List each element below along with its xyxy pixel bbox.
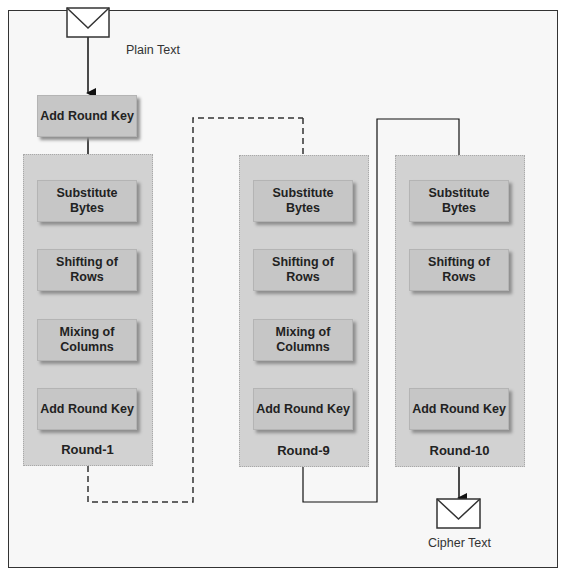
round-10-shift-rows-step: Shifting of Rows (409, 249, 509, 291)
round-9-add-round-key-step: Add Round Key (253, 388, 353, 430)
initial-add-round-key-step: Add Round Key (37, 95, 137, 137)
round-1-substitute-bytes-step: Substitute Bytes (37, 180, 137, 222)
round-1-label: Round-1 (23, 442, 152, 457)
cipher-text-label: Cipher Text (428, 536, 491, 550)
envelope-icon (436, 498, 481, 529)
plain-text-label: Plain Text (126, 43, 180, 57)
round-9-shift-rows-step: Shifting of Rows (253, 249, 353, 291)
round-10-label: Round-10 (395, 443, 524, 458)
round-9-substitute-bytes-step: Substitute Bytes (253, 180, 353, 222)
round-10-substitute-bytes-step: Substitute Bytes (409, 180, 509, 222)
envelope-icon (66, 7, 110, 38)
round-10-add-round-key-step: Add Round Key (409, 388, 509, 430)
round-9-label: Round-9 (239, 443, 368, 458)
round-1-add-round-key-step: Add Round Key (37, 388, 137, 430)
round-1-mix-columns-step: Mixing of Columns (37, 319, 137, 361)
round-1-shift-rows-step: Shifting of Rows (37, 249, 137, 291)
round-9-mix-columns-step: Mixing of Columns (253, 319, 353, 361)
